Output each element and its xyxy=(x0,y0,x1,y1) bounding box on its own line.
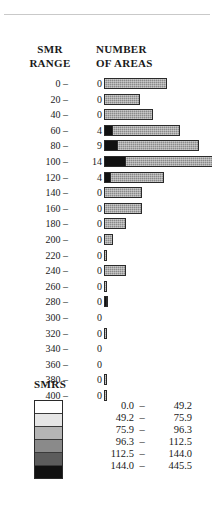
legend-range-high: 49.2 xyxy=(150,400,192,412)
row-count-value: 9 xyxy=(72,138,102,154)
legend-range-low: 112.5 xyxy=(94,448,134,460)
bar-segment-shaded xyxy=(104,94,140,105)
legend-label-column: 0.0–49.249.2–75.975.9–96.396.3–112.5112.… xyxy=(64,400,192,472)
bar-segment-shaded xyxy=(104,218,126,229)
row-bar xyxy=(104,203,142,214)
row-count-value: 0 xyxy=(72,248,102,264)
legend-range-low: 96.3 xyxy=(94,436,134,448)
row-count-value: 14 xyxy=(72,154,102,170)
chart-row: 360 –0 xyxy=(0,357,212,373)
legend-swatch-column xyxy=(34,400,63,479)
bar-segment-shaded xyxy=(104,265,126,276)
chart-row: 320 –0 xyxy=(0,326,212,342)
row-count-value: 0 xyxy=(72,185,102,201)
row-range-label: 260 – xyxy=(8,279,68,295)
row-range-label: 80 – xyxy=(8,138,68,154)
chart-row: 260 –0 xyxy=(0,279,212,295)
row-count-value: 4 xyxy=(72,123,102,139)
row-range-label: 60 – xyxy=(8,123,68,139)
bar-segment-dark xyxy=(104,156,126,167)
legend-range-dash: – xyxy=(134,436,150,448)
bar-segment-shaded xyxy=(113,125,180,136)
column-header-number-line1: NUMBER xyxy=(96,43,147,55)
row-range-label: 300 – xyxy=(8,310,68,326)
row-bar xyxy=(104,296,108,307)
row-count-value: 0 xyxy=(72,341,102,357)
row-count-value: 0 xyxy=(72,372,102,388)
bar-segment-shaded xyxy=(104,187,142,198)
row-count-value: 0 xyxy=(72,279,102,295)
legend-range-low: 0.0 xyxy=(94,400,134,412)
bar-segment-shaded xyxy=(104,281,107,292)
bar-segment-shaded xyxy=(111,172,164,183)
row-range-label: 200 – xyxy=(8,232,68,248)
row-count-value: 0 xyxy=(72,294,102,310)
chart-row: 0 –0 xyxy=(0,76,212,92)
legend-swatch xyxy=(35,465,62,478)
row-count-value: 0 xyxy=(72,326,102,342)
row-range-label: 280 – xyxy=(8,294,68,310)
row-bar xyxy=(104,234,113,245)
legend-row: 49.2–75.9 xyxy=(64,412,192,424)
legend-range-dash: – xyxy=(134,424,150,436)
legend-range-low: 49.2 xyxy=(94,412,134,424)
legend-range-high: 445.5 xyxy=(150,460,192,472)
legend-range-dash: – xyxy=(134,448,150,460)
bar-segment-shaded xyxy=(126,156,212,167)
row-count-value: 0 xyxy=(72,107,102,123)
chart-row: 280 –0 xyxy=(0,294,212,310)
chart-row: 100 –14 xyxy=(0,154,212,170)
chart-header: SMR RANGE NUMBER OF AREAS xyxy=(0,42,212,72)
row-bar xyxy=(104,140,199,151)
legend-swatch xyxy=(35,439,62,452)
row-bar xyxy=(104,218,126,229)
bar-segment-dark xyxy=(104,125,113,136)
column-header-number-line2: OF AREAS xyxy=(96,56,192,70)
chart-row: 80 –9 xyxy=(0,138,212,154)
row-count-value: 0 xyxy=(72,76,102,92)
legend-range-high: 112.5 xyxy=(150,436,192,448)
row-count-value: 0 xyxy=(72,357,102,373)
chart-row: 60 –4 xyxy=(0,123,212,139)
legend-range-low: 144.0 xyxy=(94,460,134,472)
row-range-label: 140 – xyxy=(8,185,68,201)
chart-row: 120 –4 xyxy=(0,170,212,186)
row-count-value: 0 xyxy=(72,263,102,279)
bar-segment-shaded xyxy=(118,140,199,151)
bar-segment-dark xyxy=(104,140,118,151)
legend-row: 112.5–144.0 xyxy=(64,448,192,460)
column-header-smr-line2: RANGE xyxy=(20,56,80,70)
row-count-value: 0 xyxy=(72,232,102,248)
column-header-smr-line1: SMR xyxy=(37,43,62,55)
legend-swatch xyxy=(35,413,62,426)
row-bar xyxy=(104,125,180,136)
bar-chart-rows: 0 –020 –040 –060 –480 –9100 –14120 –4140… xyxy=(0,76,212,403)
chart-row: 20 –0 xyxy=(0,92,212,108)
legend-range-dash: – xyxy=(134,412,150,424)
chart-row: 140 –0 xyxy=(0,185,212,201)
row-count-value: 0 xyxy=(72,201,102,217)
row-count-value: 0 xyxy=(72,216,102,232)
row-count-value: 4 xyxy=(72,170,102,186)
chart-row: 380 –0 xyxy=(0,372,212,388)
bar-segment-shaded xyxy=(107,296,108,307)
legend-row: 0.0–49.2 xyxy=(64,400,192,412)
legend-range-high: 75.9 xyxy=(150,412,192,424)
row-range-label: 340 – xyxy=(8,341,68,357)
bar-segment-shaded xyxy=(104,78,167,89)
row-range-label: 360 – xyxy=(8,357,68,373)
row-bar xyxy=(104,374,107,385)
page-divider-rule xyxy=(4,14,210,15)
bar-segment-shaded xyxy=(104,374,107,385)
row-range-label: 320 – xyxy=(8,326,68,342)
legend-swatch xyxy=(35,401,62,413)
chart-row: 340 –0 xyxy=(0,341,212,357)
row-bar xyxy=(104,78,167,89)
legend-range-high: 96.3 xyxy=(150,424,192,436)
column-header-smr-range: SMR RANGE xyxy=(20,42,80,70)
legend-range-low: 75.9 xyxy=(94,424,134,436)
row-bar xyxy=(104,109,153,120)
bar-segment-shaded xyxy=(104,328,107,339)
chart-row: 200 –0 xyxy=(0,232,212,248)
row-bar xyxy=(104,281,107,292)
